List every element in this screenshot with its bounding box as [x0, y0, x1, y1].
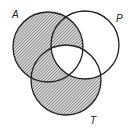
set-t-label: T [90, 115, 97, 126]
shaded-region [0, 0, 130, 131]
set-a-label: A [11, 9, 19, 20]
venn-diagram: A P T [0, 0, 130, 131]
set-p-label: P [116, 13, 123, 24]
